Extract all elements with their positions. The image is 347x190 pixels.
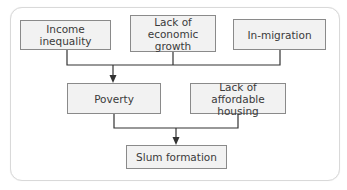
arrow-down-icon bbox=[173, 137, 180, 145]
node-label-line2: economic growth bbox=[133, 28, 213, 52]
node-lack-of-economic-growth: Lack of economic growth bbox=[130, 15, 216, 52]
node-slum-formation: Slum formation bbox=[126, 145, 227, 169]
node-poverty: Poverty bbox=[67, 83, 161, 114]
node-label-line2: affordable housing bbox=[193, 93, 283, 117]
node-label: Income inequality bbox=[23, 23, 108, 47]
node-income-inequality: Income inequality bbox=[20, 20, 111, 50]
node-label: Poverty bbox=[94, 93, 134, 105]
node-in-migration: In-migration bbox=[233, 19, 326, 50]
node-label: In-migration bbox=[247, 29, 311, 41]
node-label-line1: Lack of bbox=[219, 81, 257, 93]
node-lack-of-affordable-housing: Lack of affordable housing bbox=[190, 83, 286, 114]
node-label-line1: Lack of bbox=[154, 16, 192, 28]
node-label: Slum formation bbox=[136, 151, 217, 163]
arrow-down-icon bbox=[110, 75, 117, 83]
